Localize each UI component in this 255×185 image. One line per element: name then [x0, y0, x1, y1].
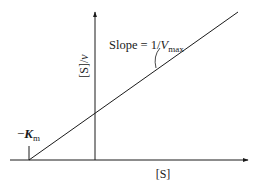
slope-label: Slope = 1/Vmax: [109, 38, 184, 54]
x-axis-label: [S]: [156, 167, 171, 181]
plot-line: [29, 12, 238, 160]
hanes-woolf-plot: [S]/v [S] −Km Slope = 1/Vmax: [0, 0, 255, 185]
km-intercept-label: −Km: [17, 126, 40, 143]
y-axis-label: [S]/v: [77, 54, 91, 78]
